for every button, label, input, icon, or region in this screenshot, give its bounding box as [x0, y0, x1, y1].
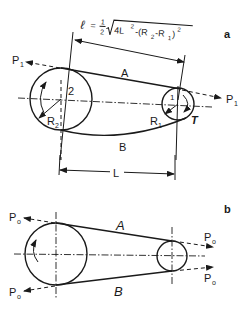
center-line-b — [14, 254, 205, 256]
strand-b-label: B — [119, 141, 126, 153]
small-pulley-number: 1 — [170, 93, 175, 102]
formula-radicand-4: ) — [172, 29, 176, 39]
force-po-top-right-label: P — [204, 231, 211, 243]
center-line — [18, 98, 212, 107]
force-po-top-left-arrow — [24, 218, 55, 223]
radius-r2-label: R — [47, 115, 55, 127]
formula-sup-1: 2 — [130, 23, 134, 29]
rotation-arrow-b-icon — [33, 240, 38, 262]
strand-b-b-label: B — [114, 284, 123, 299]
panel-b-label: b — [224, 203, 231, 215]
force-p1-left-arrow — [26, 62, 60, 68]
force-p1-right-label: P — [226, 93, 233, 105]
strand-b-a-label: A — [115, 218, 125, 233]
formula-num: 1 — [101, 18, 105, 25]
strand-a-label: A — [121, 67, 129, 79]
span-dimension-line — [75, 40, 184, 62]
force-po-bottom-left-arrow — [24, 286, 55, 291]
belt-b-strand-b — [56, 271, 172, 285]
radius-r1-label: R — [150, 115, 158, 127]
force-p1-left-sub: 1 — [20, 61, 24, 68]
length-formula: ℓ = 1 2 4L 2 -(R 2 -R 1 ) 2 — [80, 17, 193, 43]
belt-drive-diagram: a ℓ = 1 2 4L 2 -(R 2 -R 1 ) 2 — [0, 0, 247, 315]
distance-label: L — [113, 167, 119, 179]
radius-r2-sub: 2 — [55, 122, 59, 129]
small-pulley-vertical-axis — [176, 86, 178, 160]
panel-a-label: a — [224, 28, 231, 40]
force-po-bottom-left-label: P — [9, 286, 16, 298]
torque-label: T — [191, 114, 199, 126]
formula-radicand-2: -(R — [135, 27, 149, 38]
belt-strand-b — [61, 118, 186, 135]
formula-den: 2 — [100, 28, 104, 35]
belt-b-strand-a — [56, 223, 172, 241]
panel-b: b A B P o P o P o P o — [9, 203, 231, 300]
force-po-top-left-sub: o — [17, 218, 21, 225]
force-po-top-right-sub: o — [212, 238, 216, 245]
force-p1-left-label: P — [12, 54, 19, 66]
panel-a: a ℓ = 1 2 4L 2 -(R 2 -R 1 ) 2 — [12, 17, 238, 180]
force-po-bottom-right-sub: o — [212, 279, 216, 286]
force-po-bottom-left-sub: o — [17, 293, 21, 300]
formula-eq: = — [90, 21, 96, 31]
formula-radicand-1: 4L — [114, 25, 125, 36]
l-extension-left — [59, 155, 60, 175]
force-p1-right-sub: 1 — [234, 100, 238, 107]
rotation-arrow-icon — [40, 82, 46, 113]
large-pulley-number: 2 — [68, 85, 74, 97]
force-po-top-left-label: P — [9, 211, 16, 223]
formula-sup-4: 2 — [177, 27, 181, 33]
formula-lhs: ℓ — [80, 18, 86, 32]
formula-radicand-3: -R — [155, 28, 166, 39]
small-rotation-arrow-icon — [183, 95, 188, 112]
force-po-bottom-right-label: P — [204, 272, 211, 284]
